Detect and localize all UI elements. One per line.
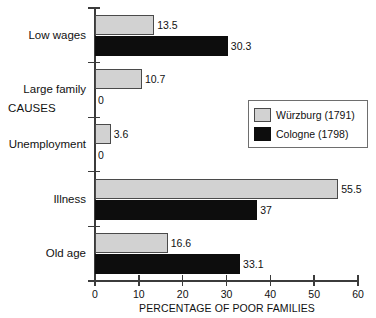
chart-legend: Würzburg (1791) Cologne (1798) [248, 100, 368, 148]
category-label: Low wages [0, 29, 86, 42]
bar-value-label: 16.6 [171, 237, 191, 249]
bar-value-label: 33.1 [243, 258, 263, 270]
bar-wurzburg [95, 69, 142, 89]
x-axis-tick [357, 275, 358, 286]
legend-item-wurzburg: Würzburg (1791) [254, 105, 362, 124]
category-label: Old age [0, 247, 86, 260]
x-axis-tick-label: 0 [80, 288, 110, 300]
category-label: Large family [0, 83, 86, 96]
x-axis-tick [94, 275, 95, 286]
bar-value-label: 0 [98, 149, 104, 161]
bar-wurzburg [95, 179, 338, 199]
bar-wurzburg [95, 124, 111, 144]
category-label: Unemployment [0, 138, 86, 151]
x-axis-tick [270, 275, 271, 286]
x-axis-tick-label: 40 [255, 288, 285, 300]
wurzburg-swatch-icon [254, 108, 271, 122]
bar-value-label: 3.6 [114, 128, 129, 140]
legend-item-cologne: Cologne (1798) [254, 124, 362, 143]
x-axis-tick [138, 275, 139, 286]
y-axis-title: CAUSES [8, 102, 56, 115]
y-axis-tick [88, 117, 100, 118]
x-axis-tick-label: 50 [299, 288, 329, 300]
bar-value-label: 30.3 [231, 40, 251, 52]
bar-value-label: 37 [260, 204, 272, 216]
x-axis-tick-label: 30 [212, 288, 242, 300]
cologne-swatch-icon [254, 127, 271, 141]
x-axis-tick-label: 60 [343, 288, 373, 300]
y-axis-tick [88, 226, 100, 227]
category-label: Illness [0, 193, 86, 206]
x-axis-tick [226, 275, 227, 286]
y-axis-tick [88, 62, 100, 63]
x-axis-tick-label: 10 [124, 288, 154, 300]
legend-label-wurzburg: Würzburg (1791) [276, 109, 355, 121]
y-axis-tick [88, 171, 100, 172]
y-axis-tick [88, 7, 100, 8]
bar-chart: 0102030405060 Low wagesLarge familyUnemp… [0, 0, 376, 318]
bar-wurzburg [95, 15, 154, 35]
bar-value-label: 0 [98, 94, 104, 106]
bar-value-label: 55.5 [341, 183, 361, 195]
x-axis-tick-label: 20 [168, 288, 198, 300]
x-axis-title: PERCENTAGE OF POOR FAMILIES [94, 302, 360, 314]
bar-cologne [95, 254, 240, 274]
x-axis-tick [313, 275, 314, 286]
x-axis-tick [182, 275, 183, 286]
bar-cologne [95, 36, 228, 56]
bar-cologne [95, 200, 257, 220]
bar-value-label: 10.7 [145, 73, 165, 85]
bar-wurzburg [95, 233, 168, 253]
legend-label-cologne: Cologne (1798) [276, 128, 348, 140]
bar-value-label: 13.5 [157, 19, 177, 31]
